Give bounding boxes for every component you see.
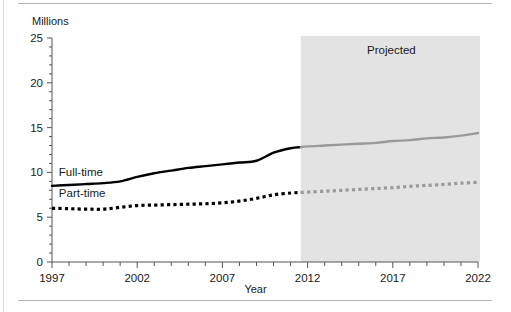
chart-figure: Millions Year Projected 0510152025 19972… bbox=[0, 0, 511, 312]
y-tick-label: 20 bbox=[30, 77, 43, 89]
x-tick-label: 1997 bbox=[39, 272, 65, 284]
y-tick-label: 5 bbox=[37, 211, 43, 223]
projected-region bbox=[301, 36, 480, 262]
x-tick-label: 2002 bbox=[124, 272, 150, 284]
plot-area: Projected 0510152025 1997200220072012201… bbox=[0, 0, 511, 312]
x-tick-label: 2012 bbox=[295, 272, 321, 284]
y-axis: 0510152025 bbox=[30, 32, 52, 268]
series-label-fulltime: Full-time bbox=[59, 166, 103, 178]
series-label-parttime: Part-time bbox=[59, 187, 106, 199]
y-tick-label: 25 bbox=[30, 32, 43, 44]
projected-band-rect bbox=[301, 36, 480, 262]
x-tick-label: 2017 bbox=[380, 272, 406, 284]
y-tick-label: 10 bbox=[30, 166, 43, 178]
x-tick-label: 2007 bbox=[210, 272, 236, 284]
projected-label: Projected bbox=[367, 44, 416, 56]
x-tick-label: 2022 bbox=[465, 272, 491, 284]
x-axis: 199720022007201220172022 bbox=[39, 262, 491, 284]
y-tick-label: 15 bbox=[30, 122, 43, 134]
y-tick-label: 0 bbox=[37, 256, 43, 268]
